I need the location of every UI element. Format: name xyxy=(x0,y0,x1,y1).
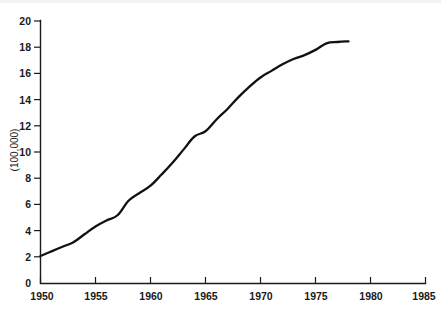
x-tick-label-1975: 1975 xyxy=(304,290,328,302)
y-tick-label-8: 8 xyxy=(25,172,31,184)
y-tick-marks xyxy=(34,21,41,257)
y-tick-label-6: 6 xyxy=(25,198,31,210)
chart-container: (100,000) 20 18 16 14 12 10 8 6 4 xyxy=(0,0,441,315)
axis-lines xyxy=(41,21,426,284)
line-chart: (100,000) 20 18 16 14 12 10 8 6 4 xyxy=(0,0,441,315)
x-tick-label-1980: 1980 xyxy=(359,290,383,302)
caption-strip xyxy=(0,311,441,315)
x-tick-label-1955: 1955 xyxy=(84,290,108,302)
y-tick-label-12: 12 xyxy=(19,120,31,132)
data-series-line xyxy=(41,41,349,256)
x-tick-label-1960: 1960 xyxy=(139,290,163,302)
y-tick-label-14: 14 xyxy=(19,94,31,106)
x-tick-marks xyxy=(41,277,426,284)
image-top-border xyxy=(0,0,441,3)
x-tick-label-1985: 1985 xyxy=(412,290,436,302)
x-tick-label-1965: 1965 xyxy=(194,290,218,302)
x-tick-label-1970: 1970 xyxy=(249,290,273,302)
y-tick-label-4: 4 xyxy=(25,225,31,237)
y-tick-label-2: 2 xyxy=(25,251,31,263)
y-tick-label-10: 10 xyxy=(19,146,31,158)
y-tick-label-16: 16 xyxy=(19,67,31,79)
y-tick-label-18: 18 xyxy=(19,41,31,53)
y-tick-label-0: 0 xyxy=(25,277,31,289)
y-tick-labels: 20 18 16 14 12 10 8 6 4 2 0 xyxy=(19,15,31,289)
x-tick-labels: 1950 1955 1960 1965 1970 1975 1980 1985 xyxy=(30,290,436,302)
x-tick-label-1950: 1950 xyxy=(30,290,54,302)
y-tick-label-20: 20 xyxy=(19,15,31,27)
